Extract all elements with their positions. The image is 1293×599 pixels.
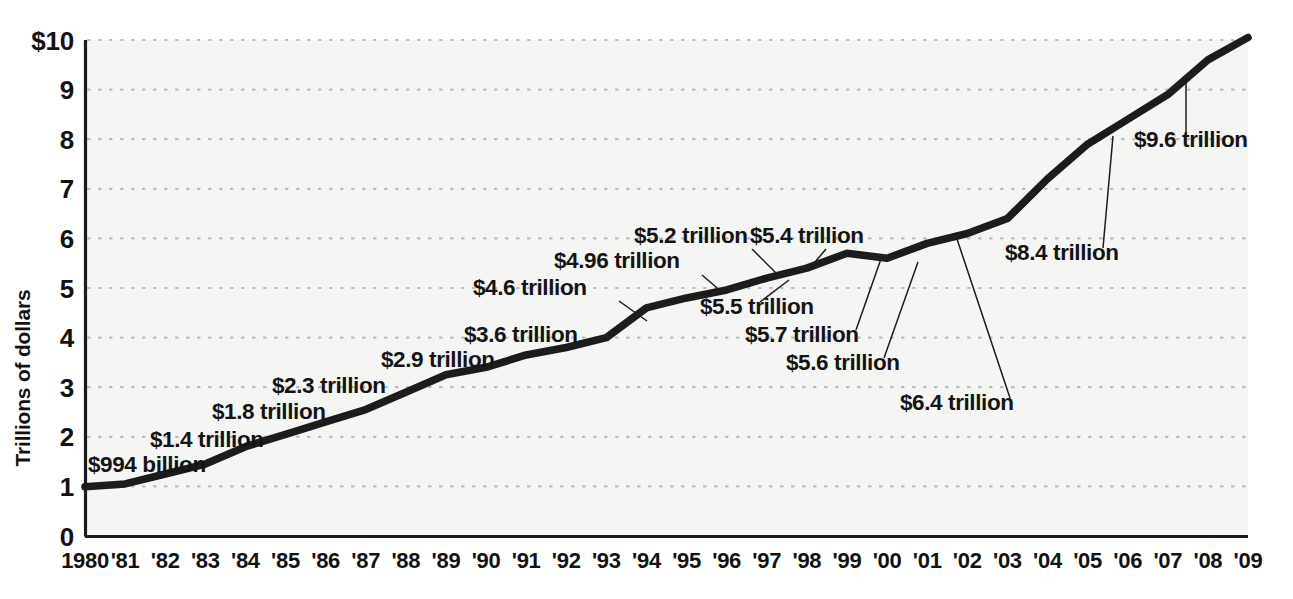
x-tick-label: '07 xyxy=(1153,548,1182,573)
value-annotation: $3.6 trillion xyxy=(464,322,578,347)
x-tick-label: 1980 xyxy=(61,548,109,573)
y-tick-label: 3 xyxy=(60,373,74,403)
x-tick-label: '93 xyxy=(592,548,621,573)
y-tick-label: 0 xyxy=(60,522,74,552)
x-tick-label: '81 xyxy=(111,548,140,573)
x-tick-label: '05 xyxy=(1073,548,1102,573)
x-tick-labels-group: 1980'81'82'83'84'85'86'87'88'89'90'91'92… xyxy=(61,548,1262,573)
y-axis-title: Trillions of dollars xyxy=(11,290,34,467)
y-tick-label: 6 xyxy=(60,224,74,254)
x-tick-label: '92 xyxy=(552,548,581,573)
x-tick-label: '94 xyxy=(632,548,662,573)
y-tick-label: 9 xyxy=(60,75,74,105)
value-annotation: $5.4 trillion xyxy=(750,223,864,248)
x-tick-label: '09 xyxy=(1234,548,1263,573)
x-tick-label: '04 xyxy=(1033,548,1063,573)
value-annotation: $994 billion xyxy=(88,452,206,477)
value-annotation: $2.9 trillion xyxy=(381,347,495,372)
value-annotation: $2.3 trillion xyxy=(272,373,386,398)
y-tick-label: 8 xyxy=(60,125,74,155)
x-tick-label: '87 xyxy=(351,548,380,573)
x-tick-label: '02 xyxy=(953,548,982,573)
value-annotation: $1.8 trillion xyxy=(212,399,326,424)
x-tick-label: '90 xyxy=(472,548,501,573)
value-annotation: $1.4 trillion xyxy=(150,427,264,452)
x-tick-label: '96 xyxy=(712,548,741,573)
plot-background xyxy=(85,40,1248,536)
x-tick-label: '03 xyxy=(993,548,1022,573)
value-annotation: $5.6 trillion xyxy=(786,350,900,375)
y-tick-label: 5 xyxy=(60,274,74,304)
national-debt-line-chart: $109876543210 1980'81'82'83'84'85'86'87'… xyxy=(0,0,1293,599)
x-tick-label: '85 xyxy=(271,548,300,573)
x-tick-label: '97 xyxy=(752,548,781,573)
chart-figure: $109876543210 1980'81'82'83'84'85'86'87'… xyxy=(0,0,1293,599)
y-tick-label: $10 xyxy=(31,26,74,56)
x-tick-label: '82 xyxy=(151,548,180,573)
value-annotation: $9.6 trillion xyxy=(1134,127,1248,152)
x-tick-label: '01 xyxy=(913,548,942,573)
x-tick-label: '91 xyxy=(512,548,541,573)
x-tick-label: '83 xyxy=(191,548,220,573)
y-tick-label: 1 xyxy=(60,472,74,502)
value-annotation: $6.4 trillion xyxy=(900,390,1014,415)
x-tick-label: '88 xyxy=(391,548,420,573)
x-tick-label: '00 xyxy=(873,548,902,573)
x-tick-label: '99 xyxy=(833,548,862,573)
x-tick-label: '89 xyxy=(432,548,461,573)
value-annotation: $5.5 trillion xyxy=(700,294,814,319)
y-tick-labels-group: $109876543210 xyxy=(31,26,75,552)
value-annotation: $4.6 trillion xyxy=(473,275,587,300)
x-tick-label: '06 xyxy=(1113,548,1142,573)
value-annotation: $4.96 trillion xyxy=(554,248,680,273)
y-tick-label: 2 xyxy=(60,422,74,452)
x-tick-label: '95 xyxy=(672,548,701,573)
y-tick-label: 7 xyxy=(60,174,74,204)
x-tick-label: '84 xyxy=(231,548,261,573)
x-tick-label: '98 xyxy=(792,548,821,573)
y-tick-label: 4 xyxy=(60,323,75,353)
value-annotation: $8.4 trillion xyxy=(1005,240,1119,265)
value-annotation: $5.2 trillion xyxy=(634,223,748,248)
x-tick-label: '08 xyxy=(1193,548,1222,573)
value-annotation: $5.7 trillion xyxy=(745,322,859,347)
x-tick-label: '86 xyxy=(311,548,340,573)
